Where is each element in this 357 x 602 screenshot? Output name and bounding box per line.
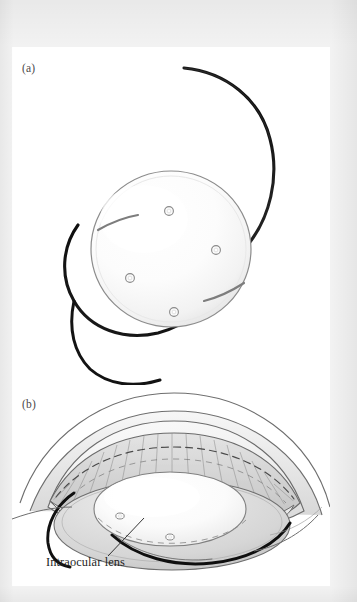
positioning-hole <box>170 308 179 317</box>
positioning-hole <box>212 246 221 255</box>
callout-intraocular-lens-label: Intraocular lens <box>46 556 125 568</box>
positioning-hole <box>166 534 174 540</box>
panel-a: (a) <box>12 47 330 385</box>
iol-optic <box>91 171 251 327</box>
iol-optic-implanted <box>94 472 246 546</box>
iol-isolated-illustration <box>12 47 330 385</box>
figure-paper-area: (a) <box>12 47 330 586</box>
positioning-hole <box>165 207 174 216</box>
positioning-hole <box>116 513 124 519</box>
positioning-hole <box>126 274 135 283</box>
figure-page: (a) <box>0 0 357 602</box>
